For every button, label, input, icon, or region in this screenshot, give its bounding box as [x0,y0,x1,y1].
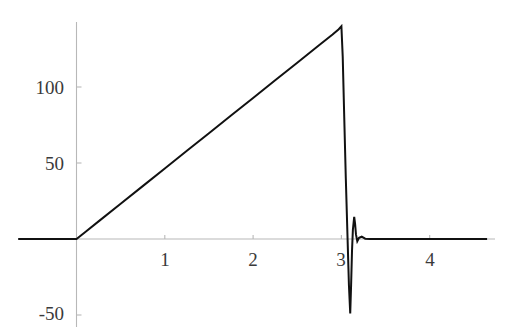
x-tick-label-4: 4 [414,250,446,269]
chart-figure: 100 50 -50 1 2 3 4 [0,0,506,335]
x-tick-label-2: 2 [237,250,269,269]
x-tick-label-3: 3 [325,250,357,269]
plot-canvas [0,0,506,335]
x-tick-label-1: 1 [149,250,181,269]
y-axis-ticks [77,87,82,315]
y-tick-label-50: 50 [8,154,64,173]
y-tick-label-100: 100 [8,78,64,97]
data-series-line [18,26,487,313]
y-tick-label-neg50: -50 [0,304,64,323]
